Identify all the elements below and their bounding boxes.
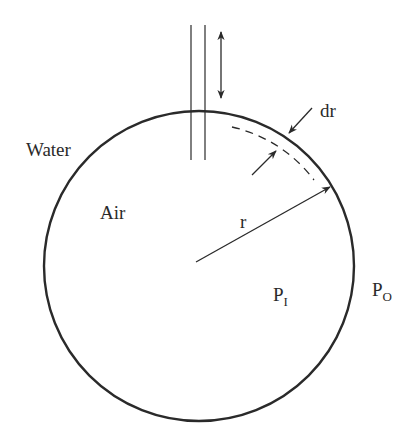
radius-arrow-icon xyxy=(196,187,330,262)
bubble-outline xyxy=(44,111,354,421)
dr-outer-arrow-icon xyxy=(289,108,312,133)
bubble-diagram xyxy=(0,0,415,437)
label-air: Air xyxy=(100,203,125,222)
label-inner-pressure: PI xyxy=(273,285,288,308)
label-water: Water xyxy=(26,140,71,159)
label-dr: dr xyxy=(320,101,336,120)
label-outer-pressure: PO xyxy=(372,280,392,303)
outer-pressure-base: P xyxy=(372,279,383,300)
outer-pressure-sub: O xyxy=(383,289,392,304)
inner-pressure-sub: I xyxy=(284,294,288,309)
label-radius: r xyxy=(240,212,246,231)
inner-pressure-base: P xyxy=(273,284,284,305)
dr-inner-arrow-icon xyxy=(252,151,276,175)
